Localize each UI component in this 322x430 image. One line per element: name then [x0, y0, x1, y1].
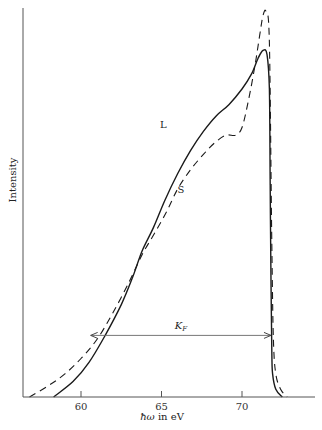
curve-L [54, 50, 283, 397]
x-axis-label-unit: in eV [155, 411, 185, 422]
fermi-energy-arrow [91, 332, 271, 338]
x-axis-label-hbar: ħω [140, 411, 155, 422]
x-ticks: 606570 [75, 391, 249, 412]
x-tick-label: 60 [75, 401, 88, 412]
kf-label-sub: F [181, 325, 188, 333]
spectrum-chart: 606570 Intensity ħω in eV L S KF [0, 0, 322, 430]
curve-label-L: L [160, 119, 167, 130]
curve-S [30, 10, 288, 397]
x-tick-label: 70 [236, 401, 249, 412]
x-axis-label: ħω in eV [140, 411, 185, 422]
plot-area [30, 10, 288, 397]
y-axis-label: Intensity [7, 157, 18, 202]
kf-label: KF [174, 320, 188, 333]
curve-label-S: S [178, 184, 185, 195]
